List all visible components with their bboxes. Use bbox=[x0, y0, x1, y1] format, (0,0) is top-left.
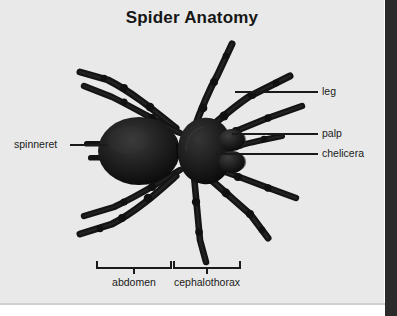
callout-label-leg: leg bbox=[322, 86, 336, 97]
callout-label-chelicera: chelicera bbox=[322, 148, 364, 159]
figure-frame: Spider Anatomy bbox=[0, 0, 397, 316]
callout-label-spinneret: spinneret bbox=[14, 139, 57, 150]
page-edge-band bbox=[385, 0, 397, 316]
anatomy-brackets bbox=[97, 261, 240, 274]
bracket-abdomen bbox=[97, 261, 171, 268]
callout-label-palp: palp bbox=[322, 128, 342, 139]
bracket-label-cephalothorax: cephalothorax bbox=[170, 277, 244, 288]
panel-bottom-rule bbox=[0, 303, 385, 305]
bracket-label-abdomen: abdomen bbox=[97, 277, 171, 288]
